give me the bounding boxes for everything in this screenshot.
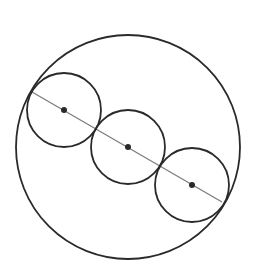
center-point-1 xyxy=(61,107,67,113)
three-circles-in-circle-diagram xyxy=(0,0,266,275)
center-points xyxy=(61,107,195,188)
center-point-2 xyxy=(125,144,131,150)
center-point-3 xyxy=(189,182,195,188)
